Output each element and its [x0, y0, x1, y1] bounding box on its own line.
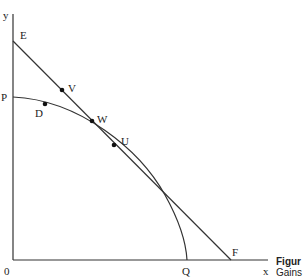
- label-p: P: [1, 91, 7, 103]
- point-v-marker: [60, 88, 65, 93]
- label-e: E: [20, 29, 27, 41]
- y-axis-label: y: [3, 9, 9, 21]
- caption-line-1: Figur: [276, 256, 301, 267]
- point-d-marker: [43, 102, 48, 107]
- price-line-ef: [13, 41, 231, 260]
- label-q: Q: [182, 265, 190, 277]
- label-f: F: [232, 246, 238, 258]
- origin-label: 0: [4, 265, 10, 277]
- label-v: V: [68, 82, 76, 94]
- label-w: W: [97, 113, 108, 125]
- caption-line-2: Gains: [276, 267, 302, 278]
- point-w-marker: [90, 119, 95, 124]
- ppf-diagram: y x 0 E P D V W U Q F: [0, 0, 303, 280]
- x-axis-label: x: [263, 265, 269, 277]
- label-d: D: [35, 107, 43, 119]
- label-u: U: [121, 135, 129, 147]
- point-u-marker: [112, 143, 117, 148]
- figure-caption: Figur Gains: [276, 256, 302, 278]
